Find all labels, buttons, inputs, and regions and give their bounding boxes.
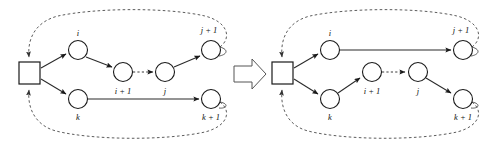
right-label-kplus1: k + 1 xyxy=(454,112,472,122)
left-node-j[interactable] xyxy=(156,63,175,82)
right-edge-j-to-kplus1 xyxy=(426,78,451,93)
right-panel-group: i i + 1 j j + 1 k k + 1 xyxy=(272,10,479,139)
right-edge-depot-to-k xyxy=(294,79,318,94)
right-arrow-block-icon xyxy=(234,59,266,89)
transition-arrow-group xyxy=(234,59,266,89)
left-node-kplus1[interactable] xyxy=(202,90,221,109)
left-panel-group: i i + 1 j j + 1 k k + 1 xyxy=(19,10,227,139)
right-node-jplus1[interactable] xyxy=(454,41,473,60)
left-label-j: j xyxy=(163,86,167,96)
left-depot-node[interactable] xyxy=(19,62,40,84)
right-label-j: j xyxy=(416,86,420,96)
left-label-i: i xyxy=(77,28,80,38)
left-label-k: k xyxy=(76,112,80,122)
right-return-edge-kplus1-to-depot xyxy=(282,90,479,138)
right-node-k[interactable] xyxy=(321,90,340,109)
right-node-kplus1[interactable] xyxy=(454,90,473,109)
left-label-kplus1: k + 1 xyxy=(202,112,220,122)
left-return-edge-jplus1-to-depot xyxy=(29,10,227,57)
left-node-jplus1[interactable] xyxy=(202,41,221,60)
right-node-i[interactable] xyxy=(321,41,340,60)
right-node-iplus1[interactable] xyxy=(363,63,382,82)
right-edge-depot-to-i xyxy=(294,54,318,68)
right-edge-k-to-iplus1 xyxy=(338,78,360,93)
left-return-edge-kplus1-to-depot xyxy=(29,90,227,138)
left-edge-depot-to-i xyxy=(41,54,66,68)
right-label-i: i xyxy=(329,28,332,38)
left-edge-i-to-iplus1 xyxy=(86,57,112,67)
diagram-canvas: i i + 1 j j + 1 k k + 1 xyxy=(0,0,504,144)
right-depot-node[interactable] xyxy=(272,62,293,84)
left-node-k[interactable] xyxy=(69,90,88,109)
right-label-jplus1: j + 1 xyxy=(452,25,470,35)
left-node-iplus1[interactable] xyxy=(114,63,133,82)
figure-container: i i + 1 j j + 1 k k + 1 xyxy=(0,0,504,144)
right-label-iplus1: i + 1 xyxy=(364,86,381,96)
right-label-k: k xyxy=(328,112,332,122)
left-edge-j-to-jplus1 xyxy=(174,56,200,67)
left-node-i[interactable] xyxy=(69,41,88,60)
right-node-j[interactable] xyxy=(409,63,428,82)
left-label-jplus1: j + 1 xyxy=(200,25,218,35)
left-label-iplus1: i + 1 xyxy=(115,86,132,96)
left-edge-depot-to-k xyxy=(41,79,66,94)
